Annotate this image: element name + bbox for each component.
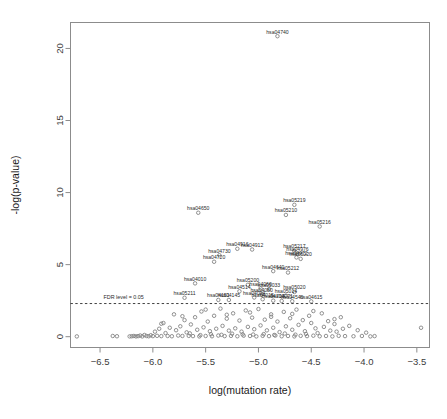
pathway-label: hsa05219	[283, 197, 306, 203]
x-axis-title: log(mutation rate)	[209, 384, 291, 396]
pathway-label: hsa04650	[187, 205, 210, 211]
x-tick-label: −6.0	[143, 356, 162, 367]
x-tick-label: −5.0	[249, 356, 268, 367]
x-tick-label: −6.5	[91, 356, 110, 367]
x-tick-label: −5.5	[196, 356, 215, 367]
x-tick-label: −3.5	[407, 356, 426, 367]
pathway-label: hsa05211	[174, 290, 196, 296]
pathway-label: hsa05210	[275, 207, 298, 213]
x-tick-label: −4.0	[355, 356, 374, 367]
pathway-label: hsa04730	[208, 248, 231, 254]
pathway-label: hsa05216	[308, 219, 331, 225]
pathway-label: hsa04720	[203, 254, 226, 260]
volcano-plot-figure: FDR level = 0.05 hsa04740hsa05219hsa0465…	[0, 0, 447, 419]
pathway-label: hsa04740	[266, 29, 289, 35]
pathway-label: hsa04010	[184, 276, 207, 282]
fdr-threshold-label: FDR level = 0.05	[104, 294, 144, 300]
figure-background	[0, 0, 447, 419]
y-axis-title: -log(p-value)	[9, 156, 21, 215]
pathway-label: hsa04912	[241, 242, 264, 248]
pathway-label: hsa04151	[207, 292, 230, 298]
y-tick-label: 15	[54, 115, 65, 126]
y-tick-label: 0	[54, 334, 65, 339]
pathway-label: hsa05212	[277, 265, 300, 271]
pathway-label: hsa04514	[228, 284, 251, 290]
x-tick-label: −4.5	[302, 356, 321, 367]
pathway-label: hsa05220	[289, 251, 312, 257]
y-tick-label: 10	[54, 187, 65, 198]
y-tick-label: 5	[54, 262, 65, 267]
pathway-label: hsa04615	[300, 294, 323, 300]
volcano-plot-svg: FDR level = 0.05 hsa04740hsa05219hsa0465…	[0, 0, 447, 419]
y-tick-label: 20	[54, 43, 65, 54]
